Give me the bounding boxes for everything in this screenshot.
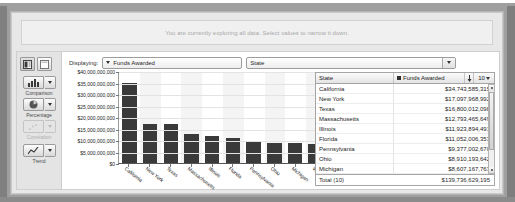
table-row[interactable]: Massachusetts$12,793,465,649 (316, 114, 494, 124)
scroll-down-icon (491, 169, 493, 171)
cell-funds-awarded: $8,910,193,642 (394, 156, 494, 162)
tool-trend[interactable]: Trend (20, 144, 58, 164)
table-scrollbar[interactable] (488, 84, 495, 174)
tool-label-trend: Trend (20, 158, 58, 164)
line-chart-icon (28, 147, 39, 155)
x-axis-tick: Michigan (284, 165, 305, 186)
measure-select[interactable]: Funds Awarded (102, 57, 242, 69)
chevron-down-icon (48, 125, 52, 128)
column-header-state[interactable]: State (316, 73, 394, 83)
tool-correlation: Correlation (20, 120, 58, 140)
comparison-dropdown-button[interactable] (45, 76, 56, 89)
scrollbar-thumb[interactable] (489, 92, 494, 150)
cell-funds-awarded: $12,793,465,649 (394, 116, 494, 122)
chart-table-view-icon (23, 60, 32, 69)
table-total-row: Total (10) $139,736,629,195 (316, 174, 494, 185)
cell-state: New York (316, 94, 394, 103)
table-only-view-button[interactable] (37, 57, 52, 71)
chart-bar[interactable] (205, 136, 219, 163)
content-area: Comparison Percent (16, 51, 500, 190)
column-header-funds-awarded-label: Funds Awarded (403, 75, 445, 81)
cell-funds-awarded: $9,377,002,670 (394, 146, 494, 152)
table-row[interactable]: Florida$11,052,006,353 (316, 134, 494, 144)
x-axis-tick: California (118, 165, 139, 186)
y-axis-tick-mark (116, 130, 119, 131)
y-axis-tick-label: $10,000,000,000 (77, 139, 115, 144)
x-axis-tick: Pennsylvania (243, 165, 264, 186)
table-body[interactable]: California$34,743,585,315New York$17,097… (316, 84, 494, 174)
table-header-row: State Funds Awarded 10 (316, 73, 494, 84)
percentage-chart-button[interactable] (23, 98, 44, 111)
bar-chart-icon (28, 79, 39, 87)
dimension-select[interactable]: State (246, 57, 456, 69)
trend-chart-button[interactable] (23, 144, 44, 157)
chart-gridline (119, 107, 326, 108)
column-header-funds-awarded[interactable]: Funds Awarded (394, 73, 465, 83)
cell-state: Ohio (316, 154, 394, 163)
cell-state: Texas (316, 104, 394, 113)
view-toggle-group (20, 57, 52, 71)
table-row[interactable]: California$34,743,585,315 (316, 84, 494, 94)
table-only-view-icon (40, 60, 49, 69)
cell-funds-awarded: $8,607,167,763 (394, 166, 494, 172)
status-banner-text: You are currently exploring all data. Se… (165, 30, 349, 36)
chart-bar[interactable] (184, 134, 198, 163)
data-table: State Funds Awarded 10 (315, 72, 495, 186)
chart-gridline (119, 130, 326, 131)
x-axis-tick-label: Ohio (269, 165, 281, 176)
trend-dropdown-button[interactable] (45, 144, 56, 157)
page-size-select[interactable]: 10 (474, 73, 494, 83)
comparison-chart-button[interactable] (23, 76, 44, 89)
chart-plot-area (118, 72, 326, 164)
cell-funds-awarded: $11,052,006,353 (394, 136, 494, 142)
table-row[interactable]: Pennsylvania$9,377,002,670 (316, 144, 494, 154)
total-label: Total (10) (316, 177, 394, 183)
chart-type-sidebar: Comparison Percent (17, 52, 62, 189)
x-axis-tick: Illinois (201, 165, 222, 186)
table-row[interactable]: Michigan$8,607,167,763 (316, 164, 494, 174)
y-axis-tick-label: $25,000,000,000 (77, 104, 115, 109)
bar-chart: $40,000,000,000$35,000,000,000$30,000,00… (67, 72, 330, 186)
cell-funds-awarded: $17,097,968,992 (394, 96, 494, 102)
cell-state: California (316, 84, 394, 93)
chart-y-axis: $40,000,000,000$35,000,000,000$30,000,00… (67, 72, 117, 164)
x-axis-tick: Texas (160, 165, 181, 186)
pie-chart-icon (29, 100, 38, 109)
percentage-dropdown-button[interactable] (45, 98, 56, 111)
checkbox-icon[interactable] (397, 76, 401, 80)
table-row[interactable]: Illinois$11,923,894,491 (316, 124, 494, 134)
chart-gridline (119, 118, 326, 119)
y-axis-tick-label: $35,000,000,000 (77, 81, 115, 86)
tool-comparison[interactable]: Comparison (20, 76, 58, 96)
x-axis-tick-label: Texas (166, 165, 180, 178)
chevron-down-icon (486, 77, 490, 80)
cell-state: Illinois (316, 124, 394, 133)
chart-table-view-button[interactable] (20, 57, 35, 71)
y-axis-tick-label: $20,000,000,000 (77, 116, 115, 121)
scroll-down-button[interactable] (489, 167, 494, 173)
x-axis-tick: New York (139, 165, 160, 186)
sort-down-arrow-icon (467, 75, 472, 82)
y-axis-tick-mark (116, 84, 119, 85)
scroll-up-button[interactable] (489, 85, 494, 91)
display-toolbar: Displaying: Funds Awarded State (69, 56, 456, 69)
frame-edge-bottom (0, 197, 515, 202)
table-row[interactable]: New York$17,097,968,992 (316, 94, 494, 104)
frame-edge-right (507, 6, 515, 202)
table-row[interactable]: Texas$16,800,012,098 (316, 104, 494, 114)
y-axis-tick-label: $40,000,000,000 (77, 70, 115, 75)
y-axis-tick-mark (116, 153, 119, 154)
displaying-label: Displaying: (69, 60, 98, 66)
tool-percentage[interactable]: Percentage (20, 98, 58, 118)
tool-label-percentage: Percentage (20, 112, 58, 118)
table-row[interactable]: Ohio$8,910,193,642 (316, 154, 494, 164)
chart-gridline (119, 95, 326, 96)
tool-label-comparison: Comparison (20, 90, 58, 96)
dimension-select-button[interactable] (442, 58, 455, 68)
y-axis-tick-label: $15,000,000,000 (77, 127, 115, 132)
cell-state: Pennsylvania (316, 144, 394, 153)
scroll-up-icon (491, 87, 493, 89)
cell-funds-awarded: $11,923,894,491 (394, 126, 494, 132)
y-axis-tick-mark (116, 107, 119, 108)
sort-descending-button[interactable] (465, 73, 474, 83)
